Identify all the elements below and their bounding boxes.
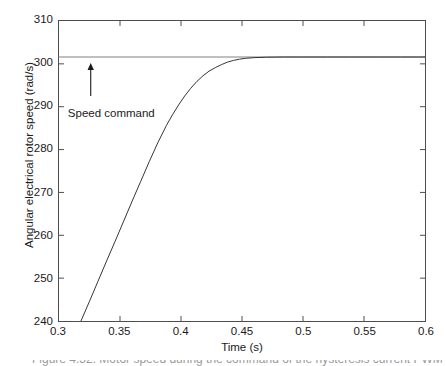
y-tick-label: 290 <box>5 100 53 112</box>
x-tick-label: 0.5 <box>295 326 311 338</box>
data-series-group <box>59 57 425 321</box>
y-tick-label: 310 <box>5 14 53 26</box>
x-tick-label: 0.3 <box>50 326 66 338</box>
annotation-arrow-head <box>88 63 94 70</box>
plot-area <box>58 20 426 322</box>
y-tick-label: 280 <box>5 143 53 155</box>
x-axis-tick-labels: 0.30.350.40.450.50.550.6 <box>0 326 446 342</box>
figure-container: Angular electrical rotor speed (rad/s) 2… <box>0 0 446 366</box>
x-tick-label: 0.35 <box>108 326 130 338</box>
speed-command-annotation-label: Speed command <box>68 107 155 119</box>
y-axis-tick-labels: 240250260270280290300310 <box>0 0 53 366</box>
x-tick-label: 0.55 <box>353 326 375 338</box>
axis-ticks <box>59 21 425 321</box>
y-tick-label: 250 <box>5 273 53 285</box>
x-tick-label: 0.6 <box>418 326 434 338</box>
x-tick-label: 0.4 <box>173 326 189 338</box>
x-axis-title: Time (s) <box>58 341 426 353</box>
y-tick-label: 260 <box>5 230 53 242</box>
series-line-1 <box>81 57 425 321</box>
y-tick-label: 300 <box>5 57 53 69</box>
y-tick-label: 270 <box>5 187 53 199</box>
figure-caption-sliver: Figure 4.32. Motor speed during the comm… <box>0 360 446 366</box>
figure-caption-text: Figure 4.32. Motor speed during the comm… <box>0 360 446 365</box>
x-tick-label: 0.45 <box>231 326 253 338</box>
plot-canvas <box>59 21 425 321</box>
annotation-arrow-group <box>88 63 94 96</box>
